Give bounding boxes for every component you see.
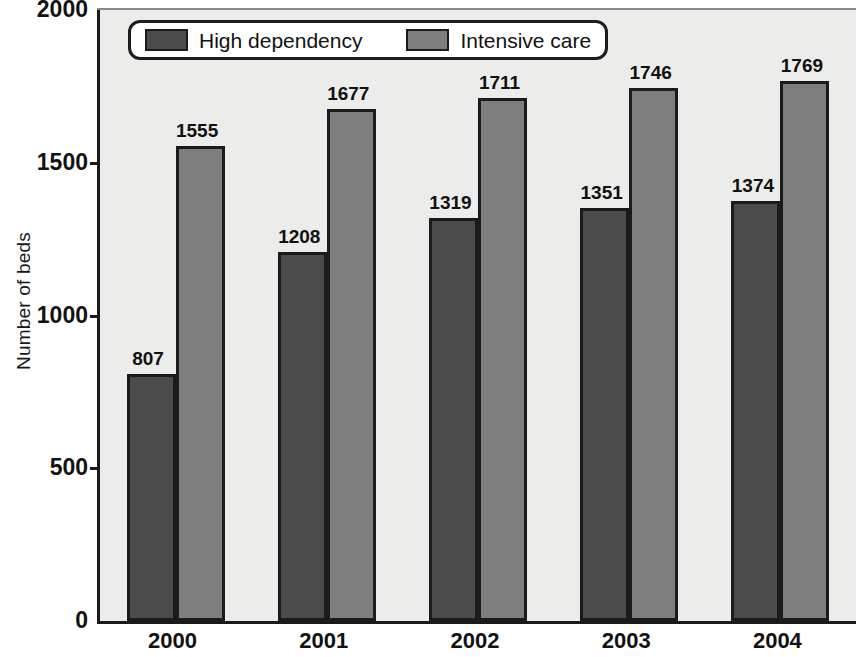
bar-2002-high-dependency <box>429 218 478 621</box>
bar-2002-intensive-care <box>478 98 527 621</box>
x-tick-label-2003: 2003 <box>551 630 702 652</box>
bar-value-label: 1711 <box>461 73 538 92</box>
chart-legend[interactable]: High dependencyIntensive care <box>128 20 608 60</box>
bar-value-label: 807 <box>110 349 187 368</box>
bar-2000-intensive-care <box>176 146 225 621</box>
bar-value-label: 1769 <box>763 56 840 75</box>
plot-area <box>97 10 856 624</box>
y-tick-label: 1000 <box>2 304 88 327</box>
x-tick-label-2002: 2002 <box>399 630 550 652</box>
bar-value-label: 1746 <box>612 63 689 82</box>
bar-2004-intensive-care <box>780 81 829 621</box>
bar-value-label: 1677 <box>310 84 387 103</box>
legend-item-high-dependency[interactable]: High dependency <box>145 29 362 51</box>
bar-value-label: 1319 <box>412 193 489 212</box>
y-tick-label: 1500 <box>2 151 88 174</box>
bar-chart: Number of beds 0500100015002000 80715551… <box>0 0 862 657</box>
bar-value-label: 1555 <box>159 121 236 140</box>
legend-swatch-icon <box>406 29 449 51</box>
bar-2001-intensive-care <box>327 109 376 621</box>
bar-value-label: 1374 <box>714 176 791 195</box>
legend-item-intensive-care[interactable]: Intensive care <box>406 29 591 51</box>
legend-swatch-icon <box>145 29 188 51</box>
bar-2001-high-dependency <box>278 252 327 621</box>
bar-2003-intensive-care <box>629 88 678 621</box>
legend-label: High dependency <box>199 30 362 51</box>
bar-2000-high-dependency <box>127 374 176 621</box>
bar-2004-high-dependency <box>731 201 780 621</box>
y-tick-label: 2000 <box>2 0 88 21</box>
y-tick-label: 500 <box>2 456 88 479</box>
x-tick-label-2004: 2004 <box>702 630 853 652</box>
y-tick-label: 0 <box>2 609 88 632</box>
x-tick-label-2000: 2000 <box>97 630 248 652</box>
legend-label: Intensive care <box>460 30 591 51</box>
bar-2003-high-dependency <box>580 208 629 621</box>
bar-value-label: 1351 <box>563 183 640 202</box>
x-tick-label-2001: 2001 <box>248 630 399 652</box>
bar-value-label: 1208 <box>261 227 338 246</box>
y-axis-ticks: 0500100015002000 <box>0 0 88 657</box>
